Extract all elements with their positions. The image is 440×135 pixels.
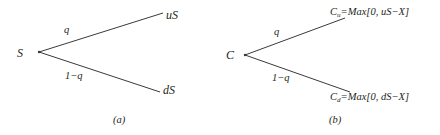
panel-b-up-terminal-label: Cu=Max[0, uS−X] xyxy=(330,7,409,19)
panel-a-up-terminal-label: uS xyxy=(166,9,178,21)
panel-a-root-label: S xyxy=(17,47,23,59)
panel-b-down-probability-label: 1−q xyxy=(272,73,290,84)
panel-b-down-terminal-var: C xyxy=(330,91,337,102)
panel-a-up-branch xyxy=(39,13,163,52)
tree-lines xyxy=(0,0,440,135)
panel-b-caption: (b) xyxy=(329,115,341,126)
binomial-tree-figure: S uS dS q 1−q (a) C Cu=Max[0, uS−X] Cd=M… xyxy=(0,0,440,135)
panel-b-down-terminal-expression: =Max[0, dS−X] xyxy=(341,91,409,102)
panel-b-up-terminal-expression: =Max[0, uS−X] xyxy=(341,6,409,17)
panel-a-caption: (a) xyxy=(113,115,125,126)
panel-a-down-terminal-label: dS xyxy=(163,84,175,96)
panel-b-down-branch xyxy=(245,55,350,92)
panel-a-vertex-dot xyxy=(38,51,40,53)
panel-b-root-label: C xyxy=(226,49,234,61)
panel-b-up-probability-label: q xyxy=(274,27,279,38)
panel-a-up-probability-label: q xyxy=(64,25,69,36)
panel-b-up-branch xyxy=(245,18,345,55)
panel-a-down-probability-label: 1−q xyxy=(65,71,83,82)
panel-b-up-terminal-var: C xyxy=(330,6,337,17)
panel-a-down-branch xyxy=(39,52,160,92)
panel-b-vertex-dot xyxy=(244,54,246,56)
panel-b-down-terminal-label: Cd=Max[0, dS−X] xyxy=(330,92,409,104)
